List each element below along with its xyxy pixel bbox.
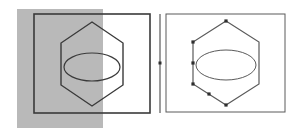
vertex-marker-bottom-left-edge[interactable] — [207, 92, 210, 95]
vertex-marker-left-mid[interactable] — [191, 61, 194, 64]
selection-highlight-rect[interactable] — [17, 9, 103, 128]
vertex-marker-bottom[interactable] — [224, 103, 227, 106]
midpoint-tick-marker[interactable] — [159, 62, 162, 65]
drawing-canvas[interactable] — [0, 0, 300, 139]
vertex-marker-left-lower[interactable] — [191, 82, 194, 85]
cad-drawing-svg[interactable] — [0, 0, 300, 139]
vertex-marker-top[interactable] — [224, 19, 227, 22]
vertex-marker-left-upper[interactable] — [191, 40, 194, 43]
